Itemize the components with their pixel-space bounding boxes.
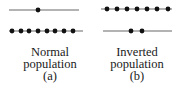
particle-dot bbox=[62, 29, 67, 34]
particle-dot bbox=[125, 7, 130, 12]
particle-dot bbox=[140, 29, 145, 34]
caption-normal-population: Normal population (a) bbox=[20, 46, 80, 82]
particle-dot bbox=[145, 7, 150, 12]
particle-dot bbox=[71, 29, 76, 34]
caption-inverted-population: Inverted population (b) bbox=[106, 46, 168, 82]
particle-dot bbox=[135, 7, 140, 12]
particle-dot bbox=[36, 29, 41, 34]
particle-dot bbox=[45, 29, 50, 34]
panel-label-b: (b) bbox=[106, 70, 168, 82]
particle-dot bbox=[115, 7, 120, 12]
energy-level-diagram bbox=[0, 0, 179, 45]
particle-dot bbox=[36, 8, 41, 13]
particle-dot bbox=[10, 29, 15, 34]
particle-dot bbox=[27, 29, 32, 34]
particle-dot bbox=[129, 29, 134, 34]
particle-dot bbox=[19, 29, 24, 34]
particle-dot bbox=[53, 29, 58, 34]
particle-dot bbox=[155, 7, 160, 12]
panel-label-a: (a) bbox=[20, 70, 80, 82]
particle-dot bbox=[166, 7, 171, 12]
particle-dot bbox=[105, 7, 110, 12]
